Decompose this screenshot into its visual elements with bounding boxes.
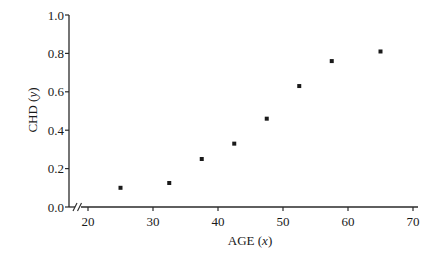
x-tick-label: 20 xyxy=(82,214,95,229)
x-axis: 203040506070 xyxy=(69,203,420,229)
y-tick-label: 0.2 xyxy=(48,161,64,176)
y-tick-label: 0.4 xyxy=(48,123,65,138)
y-axis-title-paren-close: ) xyxy=(25,87,40,91)
x-tick-label: 70 xyxy=(407,214,420,229)
x-axis-title-text: AGE xyxy=(228,233,255,248)
data-point xyxy=(119,186,123,190)
y-axis-title-text: CHD xyxy=(25,105,40,132)
axis-break-mark xyxy=(78,203,82,211)
y-tick-label: 1.0 xyxy=(48,8,64,23)
data-point xyxy=(200,157,204,161)
x-tick-label: 50 xyxy=(277,214,290,229)
x-axis-title: AGE (x) xyxy=(228,233,272,248)
y-tick-label: 0.8 xyxy=(48,46,64,61)
data-point xyxy=(297,84,301,88)
y-axis: 0.00.20.40.60.81.0 xyxy=(48,8,69,215)
scatter-chart: 0.00.20.40.60.81.0 203040506070 CHD (y) … xyxy=(0,0,440,259)
y-tick-label: 0.0 xyxy=(48,200,64,215)
y-tick-label: 0.6 xyxy=(48,84,65,99)
data-point xyxy=(330,59,334,63)
data-point xyxy=(167,181,171,185)
x-tick-label: 30 xyxy=(147,214,160,229)
data-point xyxy=(232,142,236,146)
chart-canvas: 0.00.20.40.60.81.0 203040506070 CHD (y) … xyxy=(0,0,440,259)
data-points xyxy=(119,49,383,189)
y-axis-title: CHD (y) xyxy=(25,87,40,132)
x-tick-label: 60 xyxy=(342,214,355,229)
data-point xyxy=(265,117,269,121)
x-axis-title-paren-close: ) xyxy=(268,233,272,248)
x-tick-label: 40 xyxy=(212,214,225,229)
data-point xyxy=(379,49,383,53)
